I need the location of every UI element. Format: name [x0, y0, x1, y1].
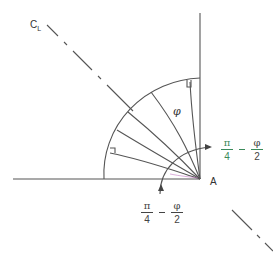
angle-right-minus — [239, 149, 245, 150]
arrow-head-bottom — [158, 184, 164, 191]
phi-label: φ — [173, 106, 181, 117]
slip-line-3 — [128, 112, 200, 179]
angle-right-den2: 2 — [254, 150, 260, 162]
right-angle-mark-left — [110, 148, 115, 153]
slip-line-diagram — [0, 0, 273, 256]
centerline-label: CL — [30, 20, 41, 32]
angle-right-den1: 4 — [224, 150, 230, 162]
angle-bottom-num2: φ — [172, 200, 181, 212]
slip-line-1 — [190, 82, 200, 179]
point-a-label: A — [210, 177, 217, 187]
angle-right-num1: π — [223, 137, 232, 149]
angle-right-num2: φ — [252, 137, 261, 149]
centerline-upper — [47, 25, 133, 111]
angle-label-right: π 4 φ 2 — [221, 137, 263, 162]
angle-bottom-num1: π — [143, 200, 152, 212]
slip-line-5 — [110, 153, 200, 179]
centerline-subscript: L — [37, 25, 41, 32]
angle-bottom-minus — [159, 212, 165, 213]
angle-bottom-den2: 2 — [174, 213, 180, 225]
arrow-head-right — [205, 144, 212, 150]
angle-label-bottom: π 4 φ 2 — [141, 200, 183, 225]
angle-bottom-den1: 4 — [144, 213, 150, 225]
centerline-lower — [232, 210, 273, 251]
slip-line-4 — [117, 130, 200, 179]
